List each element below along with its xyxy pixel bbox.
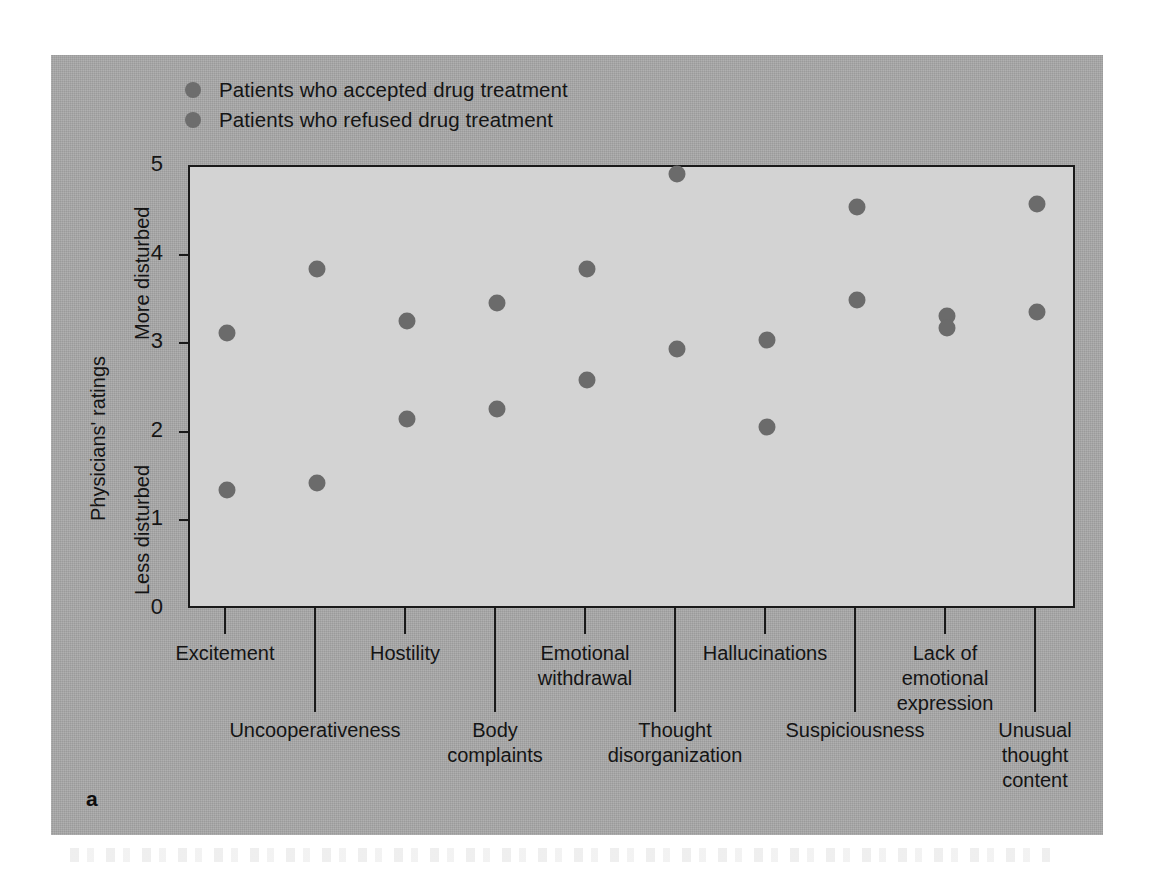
chart-legend: Patients who accepted drug treatment Pat…	[185, 75, 568, 135]
data-point	[489, 400, 506, 417]
x-axis-tick	[224, 608, 226, 634]
data-point	[669, 166, 686, 183]
x-axis-tick	[584, 608, 586, 634]
y-axis-tick-mark	[179, 519, 188, 521]
x-axis-tick	[1034, 608, 1036, 712]
y-axis-high-label: More disturbed	[131, 207, 154, 340]
legend-label-refused: Patients who refused drug treatment	[219, 108, 553, 132]
data-point	[849, 291, 866, 308]
panel-letter: a	[86, 787, 98, 811]
y-axis-tick-label: 0	[123, 594, 163, 620]
data-point	[849, 198, 866, 215]
y-axis-tick-mark	[179, 254, 188, 256]
data-point	[309, 260, 326, 277]
data-point	[669, 340, 686, 357]
y-axis-title: Physicians' ratings	[87, 356, 110, 521]
y-axis-tick-label: 1	[123, 505, 163, 531]
legend-marker-circle-icon	[185, 82, 201, 98]
x-axis-tick	[404, 608, 406, 634]
x-axis-label-unusual-thought-content: Unusual thought content	[920, 718, 1150, 793]
data-points-layer	[190, 167, 1073, 606]
legend-label-accepted: Patients who accepted drug treatment	[219, 78, 568, 102]
y-axis-tick-label: 4	[123, 240, 163, 266]
x-axis-tick	[764, 608, 766, 634]
data-point	[579, 260, 596, 277]
data-point	[939, 320, 956, 337]
y-axis-tick-mark	[179, 431, 188, 433]
y-axis-tick-label: 3	[123, 328, 163, 354]
scan-artifact	[70, 848, 1050, 862]
x-axis-tick	[944, 608, 946, 634]
legend-item-accepted: Patients who accepted drug treatment	[185, 75, 568, 105]
y-axis-tick-label: 5	[123, 151, 163, 177]
x-axis-label-lack-of-emotional-expression: Lack of emotional expression	[830, 641, 1060, 716]
data-point	[579, 371, 596, 388]
y-axis-tick-label: 2	[123, 417, 163, 443]
data-point	[1029, 304, 1046, 321]
data-point	[759, 419, 776, 436]
data-point	[309, 475, 326, 492]
data-point	[1029, 196, 1046, 213]
data-point	[399, 313, 416, 330]
data-point	[219, 481, 236, 498]
legend-marker-circle-icon	[185, 112, 201, 128]
data-point	[759, 331, 776, 348]
legend-item-refused: Patients who refused drug treatment	[185, 105, 568, 135]
figure-panel: Patients who accepted drug treatment Pat…	[51, 55, 1103, 835]
data-point	[399, 410, 416, 427]
data-point	[219, 324, 236, 341]
data-point	[489, 295, 506, 312]
y-axis-tick-mark	[179, 342, 188, 344]
plot-area	[188, 165, 1075, 608]
